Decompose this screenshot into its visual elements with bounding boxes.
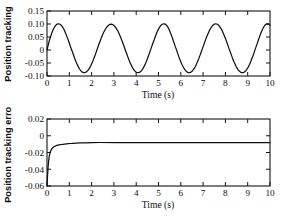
x-tick-label: 7 xyxy=(201,188,206,198)
y-tick-label: -0.04 xyxy=(25,165,45,175)
x-tick-label: 6 xyxy=(179,78,184,88)
x-tick-label: 3 xyxy=(112,78,117,88)
x-tick-label: 9 xyxy=(245,78,250,88)
x-axis-ticks-top xyxy=(69,11,247,15)
y-axis-label: Position tracking xyxy=(3,6,13,82)
x-tick-label: 4 xyxy=(134,78,139,88)
y-tick-label: -0.06 xyxy=(25,181,45,191)
x-tick-label: 2 xyxy=(89,78,94,88)
x-tick-label: 0 xyxy=(45,78,50,88)
position-tracking-error-curve xyxy=(47,143,270,187)
chart-position-tracking-error: 0.02 0 -0.02 -0.04 -0.06 0 1 2 3 4 5 6 7… xyxy=(0,107,282,219)
x-axis-ticks xyxy=(47,182,270,186)
x-tick-label: 10 xyxy=(265,78,275,88)
x-tick-label: 6 xyxy=(179,188,184,198)
position-tracking-plot: 0.15 0.10 0.05 0 -0.05 -0.10 0 1 2 3 4 5… xyxy=(0,0,282,108)
x-tick-label: 1 xyxy=(67,78,72,88)
figure-two-stacked-line-charts: 0.15 0.10 0.05 0 -0.05 -0.10 0 1 2 3 4 5… xyxy=(0,0,282,219)
y-axis-label: Position tracking error xyxy=(3,107,13,203)
y-tick-label: 0 xyxy=(39,45,44,55)
x-tick-label: 5 xyxy=(156,78,161,88)
y-tick-label: 0.10 xyxy=(28,19,44,29)
x-tick-label: 7 xyxy=(201,78,206,88)
x-tick-label: 0 xyxy=(45,188,50,198)
y-tick-label: 0.15 xyxy=(28,6,44,16)
x-tick-label: 2 xyxy=(89,188,94,198)
position-tracking-error-plot: 0.02 0 -0.02 -0.04 -0.06 0 1 2 3 4 5 6 7… xyxy=(0,107,282,219)
x-axis-label: Time (s) xyxy=(142,199,174,211)
y-tick-label: 0.05 xyxy=(28,32,44,42)
y-tick-label: 0 xyxy=(39,131,44,141)
x-tick-label: 5 xyxy=(156,188,161,198)
x-tick-label: 8 xyxy=(223,78,228,88)
position-tracking-curve xyxy=(47,24,270,73)
x-tick-label: 9 xyxy=(245,188,250,198)
x-axis-ticks xyxy=(47,72,270,76)
x-tick-label: 10 xyxy=(265,188,275,198)
x-tick-label: 4 xyxy=(134,188,139,198)
x-axis-label: Time (s) xyxy=(142,89,174,101)
y-tick-label: -0.05 xyxy=(25,58,45,68)
x-tick-label: 3 xyxy=(112,188,117,198)
x-tick-label: 8 xyxy=(223,188,228,198)
y-axis-ticks xyxy=(47,119,270,186)
plot-frame xyxy=(47,119,270,186)
y-tick-label: -0.10 xyxy=(25,71,45,81)
y-tick-label: -0.02 xyxy=(25,148,45,158)
x-axis-ticks-top xyxy=(69,119,247,123)
y-tick-label: 0.02 xyxy=(28,114,44,124)
chart-position-tracking: 0.15 0.10 0.05 0 -0.05 -0.10 0 1 2 3 4 5… xyxy=(0,0,282,108)
x-tick-label: 1 xyxy=(67,188,72,198)
